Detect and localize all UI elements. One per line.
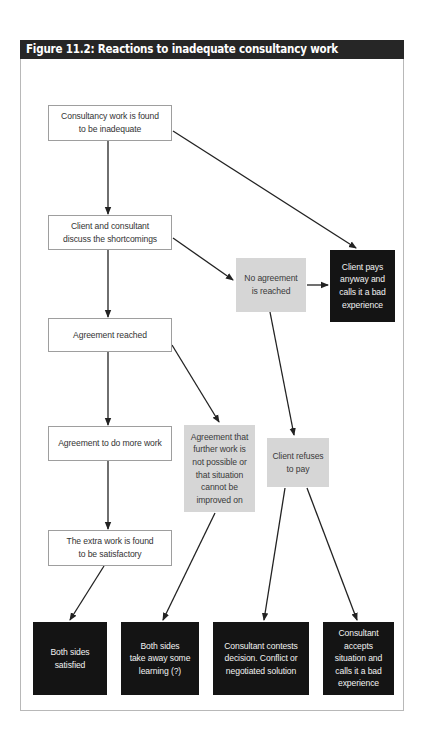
arrow-refuses-accepts (307, 488, 357, 620)
node-label: Both sides take away some learning (?) (130, 640, 191, 678)
arrow-inadequate-clientpays (173, 131, 356, 248)
node-label: Client pays anyway and calls it a bad ex… (339, 261, 385, 311)
node-more-work: Agreement to do more work (48, 426, 172, 461)
arrow-extra-bothsatisfied (70, 566, 104, 620)
node-label: Client refuses to pay (272, 450, 323, 475)
node-label: Consultant accepts situation and calls i… (335, 627, 382, 690)
node-both-sides-learning: Both sides take away some learning (?) (121, 622, 199, 695)
node-consultant-accepts: Consultant accepts situation and calls i… (323, 622, 394, 695)
node-both-sides-satisfied: Both sides satisfied (33, 622, 107, 695)
node-label: Client and consultant discuss the shortc… (63, 220, 157, 245)
arrow-agreement-notpossible (172, 345, 219, 422)
node-further-work-not-possible: Agreement that further work is not possi… (184, 425, 255, 512)
node-label: Consultant contests decision. Conflict o… (224, 640, 298, 678)
node-label: Agreement that further work is not possi… (191, 431, 248, 507)
node-label: Consultancy work is found to be inadequa… (61, 110, 159, 135)
node-agreement-reached: Agreement reached (48, 318, 172, 352)
node-consultant-contests: Consultant contests decision. Conflict o… (213, 622, 309, 695)
node-label: The extra work is found to be satisfacto… (66, 535, 153, 560)
node-client-refuses-to-pay: Client refuses to pay (267, 438, 329, 487)
node-label: Agreement reached (73, 329, 147, 342)
node-label: No agreement is reached (244, 272, 297, 297)
arrow-refuses-contests (264, 488, 285, 620)
arrow-discuss-noagreement (173, 238, 233, 280)
node-no-agreement: No agreement is reached (236, 258, 306, 312)
node-label: Agreement to do more work (58, 437, 162, 450)
node-extra-work-satisfactory: The extra work is found to be satisfacto… (48, 530, 172, 566)
node-discuss-shortcomings: Client and consultant discuss the shortc… (48, 215, 172, 250)
node-work-inadequate: Consultancy work is found to be inadequa… (48, 105, 172, 141)
node-client-pays-anyway: Client pays anyway and calls it a bad ex… (330, 250, 395, 322)
arrow-noagreement-refuses (270, 312, 294, 435)
node-label: Both sides satisfied (50, 646, 89, 671)
